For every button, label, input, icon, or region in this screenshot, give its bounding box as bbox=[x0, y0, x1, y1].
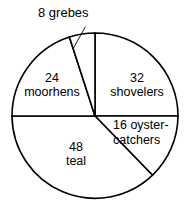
pie-chart-graphic bbox=[0, 0, 191, 203]
pie-chart: 32 shovelers 24 moorhens 48 teal 16 oyst… bbox=[0, 0, 191, 203]
pie-label-teal-value: 48 bbox=[48, 141, 104, 155]
pie-label-moorhens-value: 24 bbox=[16, 72, 88, 86]
pie-label-oyster-catchers-line2: catchers bbox=[113, 133, 191, 148]
pie-label-shovelers: 32 shovelers bbox=[104, 72, 170, 99]
pie-label-shovelers-value: 32 bbox=[104, 72, 170, 86]
pie-label-oyster-catchers: 16 oyster- catchers bbox=[113, 118, 191, 147]
pie-label-moorhens: 24 moorhens bbox=[16, 72, 88, 99]
pie-label-oyster-catchers-line1: 16 oyster- bbox=[113, 118, 191, 133]
pie-label-moorhens-name: moorhens bbox=[16, 86, 88, 100]
pie-label-grebes: 8 grebes bbox=[38, 6, 89, 20]
pie-label-shovelers-name: shovelers bbox=[104, 86, 170, 100]
pie-label-teal: 48 teal bbox=[48, 141, 104, 168]
pie-label-teal-name: teal bbox=[48, 155, 104, 169]
